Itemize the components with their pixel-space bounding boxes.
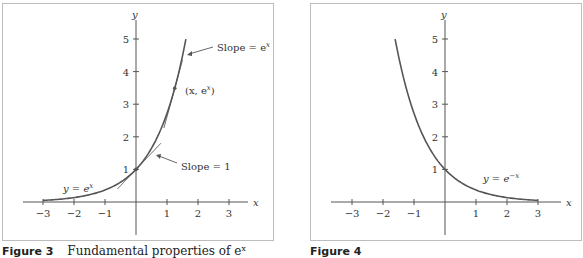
caption-text: Fundamental properties of eˣ — [67, 244, 246, 258]
x-tick-label: −1 — [98, 208, 113, 219]
label-slope-ex: Slope = ex — [217, 41, 270, 53]
y-axis-label: y — [440, 9, 447, 20]
x-tick-label: 3 — [535, 208, 541, 219]
x-tick-label: −3 — [36, 208, 51, 219]
arrowhead-icon — [187, 51, 192, 56]
arrow-slope-1 — [159, 156, 177, 163]
y-tick-label: 5 — [123, 34, 129, 45]
x-tick-label: −2 — [67, 208, 82, 219]
y-tick-label: 1 — [123, 164, 129, 175]
arrow-slope-ex — [189, 47, 213, 54]
figure-4-panel: −3−2−1123 12345 x y y = e−x — [310, 3, 582, 241]
y-axis-label: y — [131, 9, 138, 20]
y-tick-label: 2 — [432, 132, 438, 143]
figure-4-caption: Figure 4 — [310, 244, 375, 258]
x-tick-label: 1 — [473, 208, 479, 219]
y-tick-label: 3 — [123, 99, 129, 110]
y-tick-label: 4 — [432, 67, 438, 78]
point-0-1 — [134, 168, 138, 172]
figure-4-plot: −3−2−1123 12345 x y y = e−x — [311, 4, 583, 242]
x-axis-label: x — [253, 197, 259, 208]
x-tick-label: 2 — [195, 208, 201, 219]
exp-curve — [43, 39, 186, 200]
figure-3-panel: −3−2−1123 12345 x y Slope = ex (x, ex) S… — [2, 3, 274, 241]
x-tick-label: −3 — [345, 208, 360, 219]
x-tick-label: −2 — [376, 208, 391, 219]
y-tick-label: 1 — [432, 164, 438, 175]
tangent-line-slope-ex — [164, 60, 183, 128]
x-tick-label: 3 — [226, 208, 232, 219]
y-tick-label: 2 — [123, 132, 129, 143]
label-curve-ex: y = ex — [62, 182, 93, 194]
x-axis-label: x — [566, 197, 572, 208]
x-tick-label: 2 — [504, 208, 510, 219]
x-tick-label: 1 — [164, 208, 170, 219]
label-point-x-ex: (x, ex) — [185, 84, 215, 96]
figure-3-plot: −3−2−1123 12345 x y Slope = ex (x, ex) S… — [3, 4, 275, 242]
caption-figure-number: Figure 3 — [2, 245, 53, 258]
arrowhead-icon — [156, 154, 161, 159]
figure-3-caption: Figure 3Fundamental properties of eˣ — [2, 244, 246, 258]
y-tick-label: 4 — [123, 67, 129, 78]
y-tick-label: 5 — [432, 34, 438, 45]
point-x-ex — [173, 86, 177, 90]
label-curve-e-neg-x: y = e−x — [482, 172, 519, 184]
y-tick-label: 3 — [432, 99, 438, 110]
x-tick-label: −1 — [407, 208, 422, 219]
label-slope-1: Slope = 1 — [181, 161, 231, 172]
caption-figure-number: Figure 4 — [310, 245, 361, 258]
